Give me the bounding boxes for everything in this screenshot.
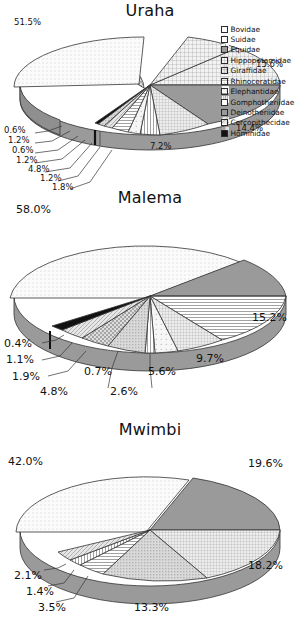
legend-item-equidae[interactable]: Equidae — [221, 45, 300, 55]
pie-slices-mwimbi — [16, 477, 280, 581]
pct-label: 4.8% — [40, 386, 68, 397]
legend-label: Gomphotheriidae — [231, 98, 295, 107]
legend-label: Giraffidae — [231, 66, 267, 75]
pct-label: 1.9% — [12, 371, 40, 382]
chart-uraha: Uraha — [0, 0, 300, 190]
pct-label: 0.4% — [4, 338, 32, 349]
pct-label: 51.5% — [14, 18, 41, 27]
legend: Bovidae Suidae Equidae Hippopotamidae Gi… — [221, 24, 300, 139]
legend-swatch-equidae — [221, 46, 228, 53]
legend-label: Elephantidae — [231, 87, 279, 96]
legend-swatch-elephantidae — [221, 88, 228, 95]
legend-swatch-hominidae — [221, 130, 228, 137]
pct-label: 5.6% — [148, 366, 176, 377]
chart-mwimbi: Mwimbi 42.0% 19.6% 18.2% 13.3% 3.5% 1.4%… — [0, 418, 300, 634]
legend-item-cercopithecidae[interactable]: Cercopithecidae — [221, 118, 300, 128]
pct-label: 13.3% — [134, 602, 169, 613]
legend-swatch-cercopithecidae — [221, 119, 228, 126]
pct-label: 1.2% — [8, 136, 30, 145]
pct-label: 58.0% — [16, 204, 51, 215]
pct-label: 9.7% — [196, 353, 224, 364]
legend-item-hominidae[interactable]: Hominidae — [221, 128, 300, 138]
pct-label: 15.2% — [252, 312, 287, 323]
pct-label: 0.6% — [4, 126, 26, 135]
pct-label: 0.7% — [84, 366, 112, 377]
legend-label: Deinotheriidae — [231, 108, 285, 117]
pct-label: 1.4% — [26, 586, 54, 597]
legend-item-bovidae[interactable]: Bovidae — [221, 24, 300, 34]
legend-label: Suidae — [231, 35, 256, 44]
legend-item-suidae[interactable]: Suidae — [221, 34, 300, 44]
pct-label: 18.2% — [248, 560, 283, 571]
legend-item-rhinoceratidae[interactable]: Rhinoceratidae — [221, 76, 300, 86]
pct-label: 3.5% — [38, 602, 66, 613]
pct-label: 1.2% — [16, 156, 38, 165]
pct-label: 7.2% — [150, 142, 172, 151]
legend-swatch-suidae — [221, 36, 228, 43]
pct-label: 42.0% — [8, 456, 43, 467]
legend-item-hippopotamidae[interactable]: Hippopotamidae — [221, 55, 300, 65]
legend-swatch-gomphotheriidae — [221, 99, 228, 106]
legend-item-elephantidae[interactable]: Elephantidae — [221, 87, 300, 97]
pct-label: 4.8% — [28, 165, 50, 174]
legend-label: Equidae — [231, 45, 261, 54]
legend-swatch-rhinoceratidae — [221, 78, 228, 85]
pct-label: 1.1% — [6, 354, 34, 365]
legend-label: Rhinoceratidae — [231, 77, 286, 86]
legend-swatch-deinotheriidae — [221, 109, 228, 116]
legend-item-deinotheriidae[interactable]: Deinotheriidae — [221, 108, 300, 118]
legend-swatch-bovidae — [221, 26, 228, 33]
pct-label: 19.6% — [248, 458, 283, 469]
legend-label: Hippopotamidae — [231, 56, 291, 65]
pct-label: 0.6% — [12, 146, 34, 155]
pct-label: 1.2% — [40, 174, 62, 183]
chart-malema: Malema 58.0% 15.2% 9.7% 5.6% 2. — [0, 188, 300, 408]
legend-swatch-hippopotamidae — [221, 57, 228, 64]
pct-label: 2.1% — [14, 570, 42, 581]
legend-label: Bovidae — [231, 25, 260, 34]
legend-item-giraffidae[interactable]: Giraffidae — [221, 66, 300, 76]
legend-swatch-giraffidae — [221, 67, 228, 74]
legend-label: Hominidae — [231, 129, 270, 138]
legend-label: Cercopithecidae — [231, 118, 290, 127]
legend-item-gomphotheriidae[interactable]: Gomphotheriidae — [221, 97, 300, 107]
pct-label: 2.6% — [110, 386, 138, 397]
